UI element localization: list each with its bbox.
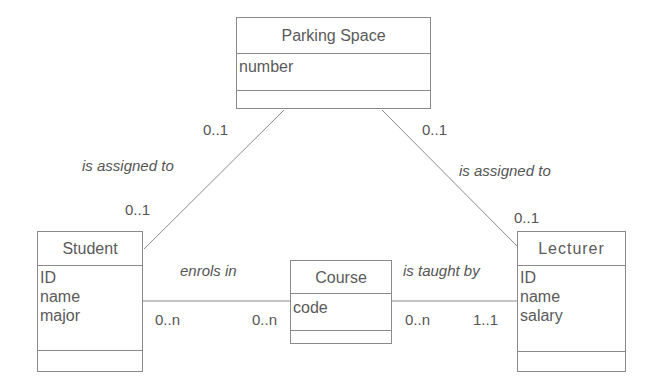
multiplicity-label: 0..1 [514,209,539,226]
multiplicity-label: 0..1 [422,121,447,138]
class-attributes: ID name salary [518,266,625,352]
multiplicity-label: 1..1 [473,311,498,328]
uml-diagram-canvas: Parking Space number Student ID name maj… [0,0,656,390]
association-label: enrols in [180,262,237,279]
class-name: Parking Space [237,18,430,54]
class-operations [291,331,391,343]
class-attributes: number [237,54,430,91]
attribute: major [40,306,142,325]
attribute: salary [520,306,625,325]
class-attributes: code [291,294,391,331]
class-student[interactable]: Student ID name major [37,231,143,372]
multiplicity-label: 0..n [405,311,430,328]
multiplicity-label: 0..1 [125,201,150,218]
attribute: ID [40,268,142,287]
multiplicity-label: 0..n [252,311,277,328]
attribute: number [239,57,430,76]
class-operations [237,91,430,108]
class-course[interactable]: Course code [290,260,392,344]
attribute: name [520,287,625,306]
attribute: name [40,287,142,306]
association-label: is taught by [403,262,480,279]
class-name: Course [291,261,391,294]
class-operations [518,352,625,371]
class-parking-space[interactable]: Parking Space number [236,17,431,109]
attribute: code [293,298,391,317]
association-label: is assigned to [459,162,551,179]
class-lecturer[interactable]: Lecturer ID name salary [517,231,626,372]
attribute: ID [520,268,625,287]
multiplicity-label: 0..1 [203,121,228,138]
multiplicity-label: 0..n [155,311,180,328]
class-name: Lecturer [518,232,625,266]
class-attributes: ID name major [38,266,142,351]
class-name: Student [38,232,142,266]
class-operations [38,351,142,371]
association-label: is assigned to [82,157,174,174]
